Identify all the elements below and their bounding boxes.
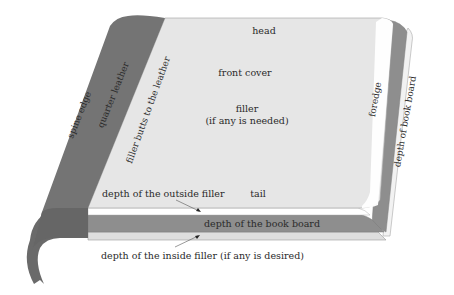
label-filler: filler [236,103,259,114]
bottom-outside-filler-band [88,208,370,215]
bottom-inner-filler-band [88,232,386,240]
label-filler-note: (if any is needed) [205,115,288,126]
label-head: head [252,25,276,36]
book-cover-diagram: head front cover filler (if any is neede… [0,0,454,295]
label-depth-book-board: depth of the book board [204,218,320,229]
label-depth-inside-filler: depth of the inside filler (if any is de… [101,250,304,261]
label-front-cover: front cover [218,67,272,78]
label-depth-outside-filler: depth of the outside filler [102,188,225,199]
label-tail: tail [250,188,266,199]
